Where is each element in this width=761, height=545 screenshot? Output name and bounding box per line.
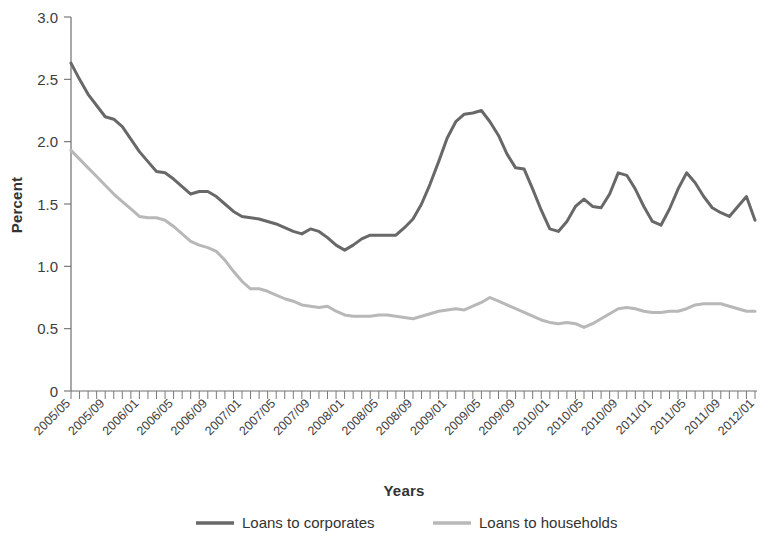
x-axis-tick-label: 2006/05 [134,396,176,438]
y-axis-tick-label: 0.5 [37,320,58,337]
x-axis-tick-label: 2005/05 [31,396,73,438]
line-chart: 00.51.01.52.02.53.0 2005/052005/092006/0… [0,0,761,545]
series-line-households [71,150,755,327]
x-axis-tick-labels: 2005/052005/092006/012006/052006/092007/… [31,396,757,438]
x-axis-tick-label: 2009/09 [476,396,518,438]
x-axis-tick-label: 2011/09 [682,396,723,437]
x-axis-tick-label: 2006/01 [100,396,142,438]
x-axis-tick-label: 2006/09 [168,396,210,438]
x-axis-tick-label: 2010/09 [578,396,620,438]
x-axis-tick-label: 2007/05 [236,396,278,438]
x-axis-tick-label: 2010/05 [544,396,586,438]
legend-label: Loans to corporates [242,514,375,531]
x-axis [71,391,757,399]
chart-canvas: 00.51.01.52.02.53.0 2005/052005/092006/0… [0,0,761,545]
x-axis-tick-label: 2012/01 [715,396,757,438]
legend-label: Loans to households [479,514,617,531]
x-axis-tick-label: 2005/09 [65,396,107,438]
x-axis-tick-label: 2009/05 [442,396,484,438]
y-axis-title: Percent [8,177,25,233]
x-axis-tick-label: 2007/01 [202,396,244,438]
x-axis-tick-label: 2011/01 [613,396,654,437]
y-axis-tick-label: 1.0 [37,258,58,275]
y-axis-tick-label: 0 [50,383,58,400]
x-axis-tick-label: 2010/01 [510,396,552,438]
y-axis: 00.51.01.52.02.53.0 [37,9,71,400]
y-axis-tick-label: 2.5 [37,71,58,88]
x-axis-tick-label: 2011/05 [648,396,689,437]
x-axis-tick-label: 2007/09 [271,396,313,438]
x-axis-tick-label: 2008/05 [339,396,381,438]
x-axis-tick-label: 2008/09 [373,396,415,438]
y-axis-tick-label: 3.0 [37,9,58,26]
x-axis-title: Years [383,482,424,499]
y-axis-tick-label: 1.5 [37,196,58,213]
chart-legend: Loans to corporatesLoans to households [196,514,617,531]
y-axis-tick-label: 2.0 [37,133,58,150]
chart-series [71,63,755,327]
x-axis-tick-label: 2009/01 [407,396,449,438]
x-axis-tick-label: 2008/01 [305,396,347,438]
series-line-corporates [71,63,755,250]
